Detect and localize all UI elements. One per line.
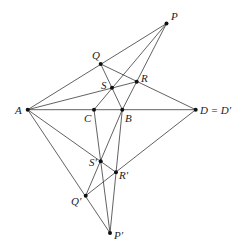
point-r2 [114, 170, 118, 174]
segment-p-b [122, 24, 166, 110]
geometry-diagram: PQRSACBD = D′S′R′Q′P′ [0, 0, 245, 251]
label-b: B [125, 112, 132, 124]
point-s [110, 86, 114, 90]
point-b [120, 108, 124, 112]
point-c [92, 108, 96, 112]
label-d: D = D′ [199, 104, 232, 116]
label-s2: S′ [89, 156, 98, 168]
label-p: P [170, 10, 178, 22]
point-p [165, 22, 169, 26]
segment-p-c [94, 24, 167, 110]
label-r: R [140, 72, 148, 84]
point-q [99, 62, 103, 66]
segment-a-p2 [28, 110, 110, 233]
label-a: A [14, 104, 22, 116]
point-s2 [99, 159, 103, 163]
point-p2 [108, 231, 112, 235]
point-d [194, 108, 198, 112]
point-labels: PQRSACBD = D′S′R′Q′P′ [14, 10, 232, 241]
label-q2: Q′ [71, 195, 82, 207]
label-s: S [101, 79, 107, 91]
segment-a-r2 [28, 110, 116, 173]
label-q: Q [92, 49, 100, 61]
segment-a-p [28, 24, 167, 110]
segment-q-d [101, 64, 196, 110]
point-r [135, 80, 139, 84]
line-segments [28, 24, 196, 234]
label-c: C [84, 112, 92, 124]
label-p2: P′ [113, 229, 124, 241]
segment-d-q2 [86, 110, 196, 196]
label-r2: R′ [118, 169, 129, 181]
point-a [26, 108, 30, 112]
point-q2 [84, 194, 88, 198]
